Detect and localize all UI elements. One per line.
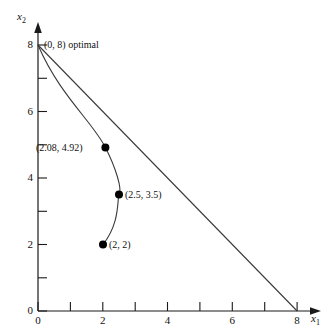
point-label-2-08-4-92: (2.08, 4.92) — [36, 142, 83, 153]
x-tick-label-8: 8 — [287, 314, 307, 326]
y-tick-label-6: 6 — [13, 105, 33, 117]
y-axis-title-sub: 2 — [22, 16, 26, 25]
x-axis-title: x1 — [311, 312, 320, 327]
constraint-line — [38, 45, 297, 311]
optimal-point-label: (0, 8) optimal — [44, 39, 99, 50]
y-tick-label-2: 2 — [13, 238, 33, 250]
x-tick-label-4: 4 — [158, 314, 178, 326]
data-point-marker-2-2[interactable] — [99, 241, 107, 249]
chart-figure: x2 x1 0 2 4 6 8 0 2 4 6 8 (0, 8) optimal… — [0, 0, 333, 336]
data-point-marker-2-5-3-5[interactable] — [115, 191, 123, 199]
point-label-2-2: (2, 2) — [109, 239, 131, 250]
x-axis-title-sub: 1 — [316, 318, 320, 327]
point-label-2-5-3-5: (2.5, 3.5) — [125, 189, 162, 200]
data-point-marker-2-08-4-92[interactable] — [101, 143, 109, 151]
y-axis-ticks — [38, 45, 47, 311]
x-axis-ticks — [38, 302, 297, 311]
y-tick-label-4: 4 — [13, 171, 33, 183]
plot-canvas — [0, 0, 333, 336]
x-tick-label-2: 2 — [93, 314, 113, 326]
y-axis-arrowhead — [34, 22, 42, 33]
y-axis-title: x2 — [17, 10, 26, 25]
y-tick-label-8: 8 — [13, 38, 33, 50]
x-tick-label-6: 6 — [222, 314, 242, 326]
y-tick-label-0: 0 — [13, 304, 33, 316]
